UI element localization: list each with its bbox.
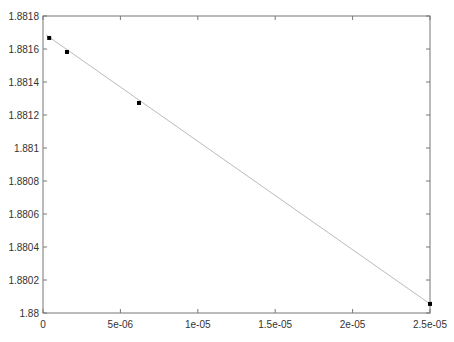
y-tick-label: 1.8812 xyxy=(8,110,39,121)
x-tick-label: 2e-05 xyxy=(340,319,366,330)
data-point xyxy=(65,50,69,54)
x-tick-label: 2.5e-05 xyxy=(413,319,447,330)
x-tick-label: 1e-05 xyxy=(185,319,211,330)
series-layer xyxy=(46,35,432,306)
x-tick-label: 1.5e-05 xyxy=(258,319,292,330)
y-tick-label: 1.8802 xyxy=(8,275,39,286)
plot-frame xyxy=(43,16,430,313)
y-tick-label: 1.8818 xyxy=(8,11,39,22)
y-tick-label: 1.8806 xyxy=(8,209,39,220)
y-tick-label: 1.8816 xyxy=(8,44,39,55)
y-tick-label: 1.8814 xyxy=(8,77,39,88)
y-tick-label: 1.881 xyxy=(14,143,39,154)
y-axis-ticks: 1.881.88021.88041.88061.88081.8811.88121… xyxy=(8,11,430,319)
x-tick-label: 5e-06 xyxy=(108,319,134,330)
chart: 05e-061e-051.5e-052e-052.5e-05 1.881.880… xyxy=(0,0,454,342)
y-tick-label: 1.88 xyxy=(20,308,40,319)
data-point xyxy=(47,36,51,40)
x-tick-label: 0 xyxy=(40,319,46,330)
y-tick-label: 1.8804 xyxy=(8,242,39,253)
data-point xyxy=(137,101,141,105)
y-tick-label: 1.8808 xyxy=(8,176,39,187)
fit-line xyxy=(46,35,430,304)
data-point xyxy=(428,302,432,306)
